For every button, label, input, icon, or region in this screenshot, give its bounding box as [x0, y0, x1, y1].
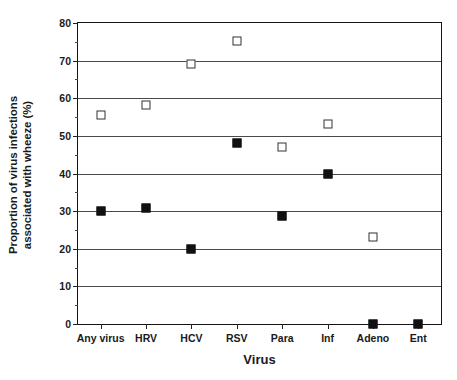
plot-area: 01020304050607080Any virusHRVHCVRSVParaI… [77, 22, 442, 325]
x-tick-0 [101, 324, 102, 329]
x-tick-label-adeno: Adeno [357, 332, 390, 344]
gridline-y-70 [78, 61, 441, 62]
y-minor-tick-75 [75, 42, 78, 43]
y-tick-80 [73, 23, 78, 24]
y-minor-tick-45 [75, 155, 78, 156]
x-tick-label-any-virus: Any virus [77, 332, 125, 344]
gridline-y-50 [78, 136, 441, 137]
data-point-filled-square-series-inf [323, 169, 332, 178]
data-point-filled-square-series-rsv [232, 139, 241, 148]
x-tick-label-ent: Ent [410, 332, 427, 344]
data-point-open-square-series-hrv [142, 101, 151, 110]
y-tick-label-80: 80 [59, 17, 71, 29]
y-minor-tick-65 [75, 79, 78, 80]
x-tick-3 [237, 324, 238, 329]
data-point-open-square-series-inf [323, 119, 332, 128]
y-axis-title-line-1: Proportion of virus infections [7, 96, 21, 254]
data-point-filled-square-series-para [278, 212, 287, 221]
x-tick-label-inf: Inf [321, 332, 334, 344]
y-tick-label-60: 60 [59, 92, 71, 104]
x-tick-4 [282, 324, 283, 329]
y-minor-tick-15 [75, 268, 78, 269]
y-minor-tick-5 [75, 305, 78, 306]
data-point-open-square-series-para [278, 143, 287, 152]
y-tick-30 [73, 211, 78, 212]
y-tick-0 [73, 324, 78, 325]
data-point-filled-square-series-hrv [142, 204, 151, 213]
x-tick-1 [146, 324, 147, 329]
y-tick-60 [73, 98, 78, 99]
gridline-y-20 [78, 249, 441, 250]
data-point-open-square-series-adeno [368, 232, 377, 241]
y-tick-label-20: 20 [59, 243, 71, 255]
data-point-filled-square-series-any-virus [96, 206, 105, 215]
data-point-open-square-series-rsv [232, 37, 241, 46]
gridline-y-60 [78, 98, 441, 99]
data-point-filled-square-series-ent [414, 320, 423, 329]
y-tick-label-50: 50 [59, 130, 71, 142]
chart-figure: Proportion of virus infections associate… [0, 0, 457, 380]
x-tick-label-rsv: RSV [226, 332, 248, 344]
x-tick-5 [328, 324, 329, 329]
y-tick-20 [73, 249, 78, 250]
y-tick-70 [73, 61, 78, 62]
y-tick-label-0: 0 [65, 318, 71, 330]
data-point-filled-square-series-adeno [368, 320, 377, 329]
y-tick-10 [73, 286, 78, 287]
y-minor-tick-55 [75, 117, 78, 118]
y-tick-label-10: 10 [59, 280, 71, 292]
y-minor-tick-25 [75, 230, 78, 231]
x-axis-title: Virus [77, 352, 442, 367]
data-point-open-square-series-hcv [187, 59, 196, 68]
y-tick-40 [73, 174, 78, 175]
x-tick-label-hrv: HRV [135, 332, 157, 344]
x-tick-label-hcv: HCV [180, 332, 202, 344]
y-tick-label-70: 70 [59, 55, 71, 67]
y-tick-label-40: 40 [59, 168, 71, 180]
gridline-y-30 [78, 211, 441, 212]
x-tick-2 [191, 324, 192, 329]
y-axis-title-line-2: associated with wheeze (%) [21, 101, 35, 249]
data-point-filled-square-series-hcv [187, 244, 196, 253]
y-tick-50 [73, 136, 78, 137]
data-point-open-square-series-any-virus [96, 111, 105, 120]
y-axis-title: Proportion of virus infections associate… [0, 5, 42, 345]
x-tick-label-para: Para [271, 332, 294, 344]
y-minor-tick-35 [75, 192, 78, 193]
y-tick-label-30: 30 [59, 205, 71, 217]
gridline-y-40 [78, 174, 441, 175]
gridline-y-10 [78, 286, 441, 287]
